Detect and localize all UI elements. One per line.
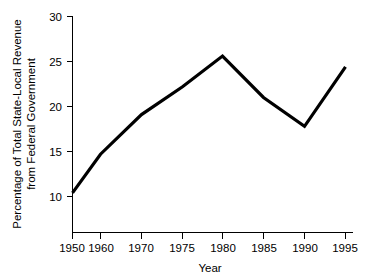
y-axis-title-line-1: Percentage of Total State-Local Revenue — [11, 19, 23, 228]
x-axis-title: Year — [198, 262, 221, 274]
y-tick-label-25: 25 — [49, 56, 62, 68]
line-chart: 30 25 20 15 10 1950 1960 1970 1975 1980 … — [0, 0, 365, 279]
chart-container: 30 25 20 15 10 1950 1960 1970 1975 1980 … — [0, 0, 365, 279]
x-tick-label-1970: 1970 — [128, 242, 154, 254]
y-tick-label-20: 20 — [49, 101, 62, 113]
x-tick-label-1985: 1985 — [251, 242, 277, 254]
x-tick-label-1960: 1960 — [88, 242, 114, 254]
x-tick-label-1995: 1995 — [332, 242, 358, 254]
y-tick-label-15: 15 — [49, 146, 62, 158]
x-tick-label-1950: 1950 — [59, 242, 85, 254]
x-tick-label-1990: 1990 — [292, 242, 318, 254]
y-axis-title-line-2: from Federal Government — [25, 57, 37, 189]
y-tick-label-30: 30 — [49, 11, 62, 23]
x-tick-label-1980: 1980 — [210, 242, 236, 254]
y-tick-label-10: 10 — [49, 191, 62, 203]
x-tick-label-1975: 1975 — [169, 242, 195, 254]
